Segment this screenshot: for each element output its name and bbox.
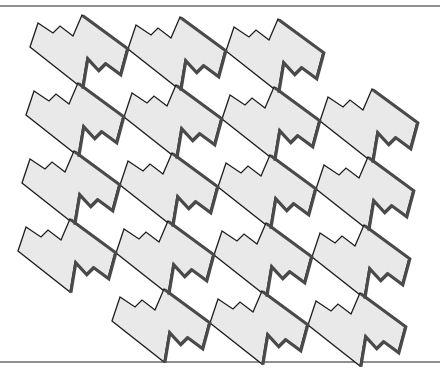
tessellation-tile [218, 155, 315, 228]
tessellation-tile [312, 225, 409, 298]
tessellation-tile [320, 89, 417, 162]
tessellation-tile [124, 85, 221, 158]
tessellation-tile [226, 19, 323, 92]
tessellation-tile [18, 219, 115, 292]
tessellation-tile [22, 151, 119, 224]
tessellation-tile [120, 153, 217, 226]
tessellation-tile [112, 289, 209, 362]
tessellation-tile [308, 293, 405, 366]
tessellation-tile [116, 221, 213, 294]
tessellation-tile [30, 15, 127, 88]
tessellation-figure [0, 0, 440, 370]
tessellation-tile [26, 83, 123, 156]
tessellation-tile [128, 17, 225, 90]
tessellation-tile [214, 223, 311, 296]
tile-grid [18, 15, 418, 367]
tessellation-tile [316, 157, 413, 230]
tessellation-tile [210, 291, 307, 364]
tessellation-tile [222, 87, 319, 160]
